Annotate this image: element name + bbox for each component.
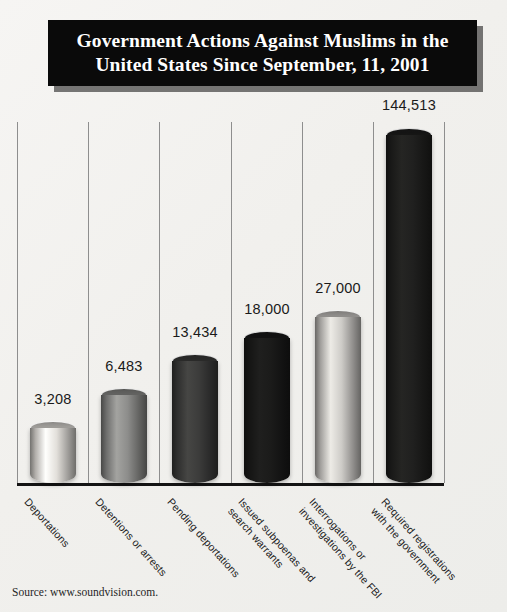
bar-body: [101, 395, 147, 483]
category-label-0: Deportations: [21, 495, 73, 550]
chart-title-box: Government Actions Against Muslims in th…: [48, 20, 477, 86]
bar-body: [172, 361, 218, 483]
bar-value-label-2: 13,434: [140, 324, 250, 340]
category-separator-line: [444, 122, 445, 483]
category-separator-line: [17, 122, 18, 483]
category-label-1: Detentions or arrests: [92, 495, 170, 579]
bar-0[interactable]: [30, 421, 76, 483]
bar-3[interactable]: [244, 331, 290, 483]
bar-value-label-1: 6,483: [69, 358, 179, 374]
bar-body: [30, 428, 76, 483]
bar-5[interactable]: [386, 128, 432, 483]
bar-body: [315, 317, 361, 483]
x-axis-baseline: [17, 483, 444, 486]
category-separator-line: [159, 122, 160, 483]
bar-1[interactable]: [101, 388, 147, 483]
bar-value-label-3: 18,000: [212, 301, 322, 317]
chart-page: Government Actions Against Muslims in th…: [0, 0, 507, 612]
bar-4[interactable]: [315, 310, 361, 483]
category-separator-line: [88, 122, 89, 483]
bar-body: [386, 135, 432, 483]
bar-body: [244, 338, 290, 483]
page-title: Government Actions Against Muslims in th…: [67, 29, 459, 77]
bar-value-label-5: 144,513: [354, 97, 464, 113]
bar-value-label-4: 27,000: [283, 280, 393, 296]
source-note: Source: www.soundvision.com.: [12, 586, 158, 598]
bar-2[interactable]: [172, 354, 218, 483]
plot-area: 3,208 6,483 13,434 18,000 27,000 144,513: [0, 100, 507, 490]
bar-value-label-0: 3,208: [0, 391, 108, 407]
category-separator-line: [373, 122, 374, 483]
